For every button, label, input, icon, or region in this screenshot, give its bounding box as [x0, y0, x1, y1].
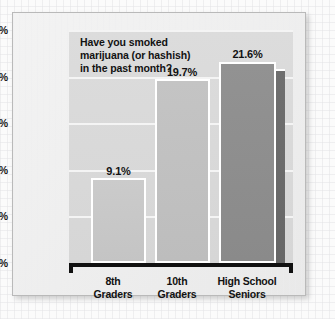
- value-label-10th: 19.7%: [152, 66, 212, 78]
- plot-area: Have you smoked marijuana (or hashish) i…: [69, 30, 293, 263]
- axis-tick-left: [69, 263, 73, 273]
- chart-page: Have you smoked marijuana (or hashish) i…: [0, 0, 335, 319]
- bar-seniors-shadow: [276, 69, 285, 263]
- bar-8th-graders: [91, 178, 146, 263]
- axis-baseline: [69, 263, 293, 267]
- value-label-8th: 9.1%: [91, 165, 146, 177]
- category-label-8th-graders: 8th Graders: [81, 275, 145, 301]
- chart-card: Have you smoked marijuana (or hashish) i…: [12, 12, 306, 296]
- ytick-label-5: 5%: [0, 210, 8, 222]
- axis-tick-right: [289, 263, 293, 273]
- value-label-seniors: 21.6%: [217, 48, 278, 60]
- ytick-label-10: 10%: [0, 164, 8, 176]
- bar-high-school-seniors: [219, 62, 276, 263]
- ytick-label-20: 20%: [0, 71, 8, 83]
- ytick-label-0: 0%: [0, 257, 8, 269]
- ytick-label-25: 25%: [0, 24, 8, 36]
- category-label-10th-graders: 10th Graders: [145, 275, 209, 301]
- category-label-high-school-seniors: High School Seniors: [209, 275, 285, 301]
- ytick-label-15: 15%: [0, 117, 8, 129]
- x-axis: [69, 263, 293, 273]
- bar-10th-graders: [155, 79, 210, 263]
- gridline-25: [69, 30, 293, 32]
